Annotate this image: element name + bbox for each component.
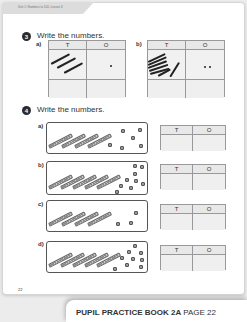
answer-ones-cell[interactable] — [87, 80, 125, 98]
ones-cell — [186, 50, 224, 80]
page-number: 22 — [18, 287, 22, 292]
ones-cell — [87, 50, 125, 80]
column-header-ones: O — [193, 126, 225, 135]
ones-cube — [138, 128, 142, 132]
answer-tens-cell[interactable] — [161, 174, 193, 190]
column-header-ones: O — [193, 246, 225, 255]
ones-cube — [127, 250, 131, 254]
book-page: PAGE 22 — [183, 308, 216, 317]
ones-cube — [131, 257, 135, 261]
breadcrumb: Unit 1: Numbers to 100, Lesson 6 — [18, 5, 63, 9]
ones-cube — [119, 184, 123, 188]
answer-table: T O — [160, 125, 226, 150]
answer-tens-cell[interactable] — [49, 80, 87, 98]
part-label: c) — [38, 201, 43, 207]
column-header-ones: O — [87, 41, 125, 50]
ones-cube — [125, 263, 129, 267]
answer-tens-cell[interactable] — [161, 135, 193, 151]
base-ten-blocks-panel — [46, 122, 148, 154]
ones-cube — [129, 221, 133, 225]
column-header-tens: T — [161, 205, 193, 214]
column-header-tens: T — [148, 41, 186, 50]
base-ten-blocks-panel — [46, 161, 148, 195]
column-header-tens: T — [161, 126, 193, 135]
ones-cube — [139, 144, 143, 148]
place-value-table: T O — [147, 40, 225, 97]
answer-ones-cell[interactable] — [193, 255, 225, 271]
answer-table: T O — [160, 245, 226, 270]
ones-cube — [139, 251, 143, 255]
part-label: a) — [36, 41, 41, 47]
ones-cube — [125, 178, 129, 182]
ones-cube — [131, 136, 135, 140]
part-label: b) — [38, 162, 44, 168]
answer-ones-cell[interactable] — [193, 174, 225, 190]
question-title: Write the numbers. — [37, 105, 104, 114]
column-header-tens: T — [161, 165, 193, 174]
ones-cube — [113, 267, 117, 271]
answer-table: T O — [160, 164, 226, 189]
answer-ones-cell[interactable] — [193, 214, 225, 230]
ones-dot — [209, 66, 211, 68]
answer-ones-cell[interactable] — [186, 80, 224, 98]
question-title: Write the numbers. — [37, 31, 104, 40]
column-header-ones: O — [193, 165, 225, 174]
column-header-ones: O — [186, 41, 224, 50]
part-label: d) — [38, 241, 44, 247]
ones-cube — [116, 222, 120, 226]
column-header-ones: O — [193, 205, 225, 214]
answer-tens-cell[interactable] — [148, 80, 186, 98]
question-number-badge: 3 — [22, 32, 31, 41]
ones-cube — [120, 146, 124, 150]
answer-tens-cell[interactable] — [161, 255, 193, 271]
ones-cube — [121, 129, 125, 133]
ones-cube — [108, 143, 112, 147]
book-title: PUPIL PRACTICE BOOK 2A — [76, 308, 181, 317]
ones-dot — [110, 65, 112, 67]
ones-cube — [139, 265, 143, 269]
base-ten-blocks-panel — [46, 241, 148, 273]
ones-cube — [141, 182, 145, 186]
footer-caption: PUPIL PRACTICE BOOK 2A PAGE 22 — [76, 308, 216, 317]
base-ten-blocks-panel — [46, 200, 148, 232]
ones-cube — [134, 211, 138, 215]
ones-cube — [140, 165, 144, 169]
ones-cube — [133, 164, 137, 168]
ones-cube — [129, 186, 133, 190]
part-label: a) — [38, 123, 43, 129]
question-number-badge: 4 — [22, 106, 31, 115]
ones-cube — [115, 190, 119, 194]
column-header-tens: T — [49, 41, 87, 50]
answer-ones-cell[interactable] — [193, 135, 225, 151]
place-value-table: T O — [48, 40, 126, 97]
answer-table: T O — [160, 204, 226, 229]
answer-tens-cell[interactable] — [161, 214, 193, 230]
column-header-tens: T — [161, 246, 193, 255]
ones-cube — [133, 172, 137, 176]
ones-cube — [133, 244, 137, 248]
ones-cube — [120, 256, 124, 260]
part-label: b) — [136, 41, 142, 47]
ones-cube — [140, 258, 144, 262]
ones-dot — [204, 66, 206, 68]
ones-cube — [134, 179, 138, 183]
